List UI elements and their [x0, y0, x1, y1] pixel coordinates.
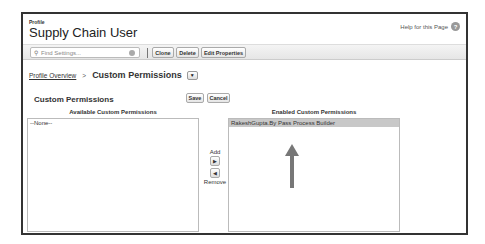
- help-link[interactable]: Help for this Page ?: [400, 22, 460, 31]
- clear-search-icon[interactable]: [129, 50, 135, 56]
- breadcrumb-current: Custom Permissions: [92, 70, 182, 80]
- remove-arrow-icon[interactable]: ◀: [210, 168, 220, 178]
- add-label: Add: [210, 149, 221, 155]
- page-title: Supply Chain User: [29, 25, 137, 40]
- edit-properties-button[interactable]: Edit Properties: [201, 47, 246, 58]
- available-label: Available Custom Permissions: [27, 109, 199, 115]
- enabled-listbox[interactable]: RakeshGupta.By Pass Process Builder: [228, 118, 400, 232]
- breadcrumb: Profile Overview > Custom Permissions ▼: [29, 70, 198, 80]
- toolbar: ⚲ Find Settings... Clone Delete Edit Pro…: [23, 44, 466, 60]
- toolbar-separator: [147, 48, 148, 58]
- clone-button[interactable]: Clone: [152, 47, 174, 58]
- cancel-button[interactable]: Cancel: [207, 93, 230, 103]
- search-input[interactable]: ⚲ Find Settings...: [30, 47, 140, 58]
- add-arrow-icon[interactable]: ▶: [210, 156, 220, 166]
- list-item[interactable]: RakeshGupta.By Pass Process Builder: [229, 119, 399, 127]
- annotation-arrow-icon: [285, 144, 299, 188]
- help-icon: ?: [451, 22, 460, 31]
- breadcrumb-profile-overview[interactable]: Profile Overview: [29, 72, 76, 79]
- available-listbox[interactable]: --None--: [27, 118, 199, 232]
- breadcrumb-separator: >: [82, 72, 86, 79]
- list-item[interactable]: --None--: [28, 119, 198, 127]
- search-icon: ⚲: [34, 49, 38, 56]
- section-title: Custom Permissions: [34, 95, 114, 104]
- save-button[interactable]: Save: [186, 93, 204, 103]
- enabled-label: Enabled Custom Permissions: [228, 109, 400, 115]
- remove-label: Remove: [204, 179, 226, 185]
- page-frame: Profile Supply Chain User Help for this …: [21, 12, 468, 235]
- help-link-label: Help for this Page: [400, 24, 448, 30]
- mover-controls: Add ▶ ◀ Remove: [203, 149, 227, 185]
- chevron-down-icon[interactable]: ▼: [187, 71, 198, 80]
- delete-button[interactable]: Delete: [176, 47, 199, 58]
- search-placeholder: Find Settings...: [41, 50, 81, 56]
